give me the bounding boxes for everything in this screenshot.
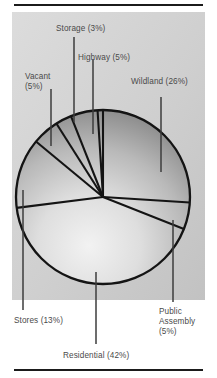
pie-chart-graphic	[0, 10, 217, 365]
slice-label-vacant-line2: (5%)	[25, 82, 43, 92]
slice-label-residential: Residential (42%)	[63, 351, 129, 361]
slice-label-wildland: Wildland (26%)	[131, 77, 188, 87]
slice-label-highway: Highway (5%)	[78, 53, 130, 63]
slice-label-storage: Storage (3%)	[56, 24, 105, 34]
pie-chart-figure: Storage (3%) Highway (5%) Vacant (5%) Wi…	[0, 10, 217, 365]
slice-label-publicassembly-line2: Assembly	[159, 317, 195, 327]
slice-label-vacant-line1: Vacant	[25, 72, 50, 82]
slice-label-stores: Stores (13%)	[14, 316, 63, 326]
top-divider-rule	[14, 4, 203, 6]
figure-container: Storage (3%) Highway (5%) Vacant (5%) Wi…	[0, 0, 217, 378]
bottom-divider-rule	[14, 369, 203, 371]
slice-label-publicassembly-line3: (5%)	[159, 327, 177, 337]
slice-label-publicassembly-line1: Public	[159, 307, 182, 317]
